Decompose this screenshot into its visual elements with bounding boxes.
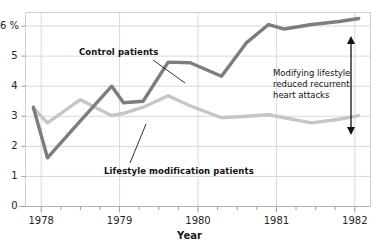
y-axis-tick-label: 4 bbox=[0, 80, 18, 91]
y-axis-tick-label: 6 % bbox=[0, 20, 18, 31]
y-axis-tick-label: 3 bbox=[0, 110, 18, 121]
y-axis-tick-label: 0 bbox=[0, 200, 18, 211]
x-axis-tick-label: 1980 bbox=[168, 215, 228, 226]
y-axis-tick-label: 1 bbox=[0, 170, 18, 181]
gap-annotation-line-1: Modifying lifestyle bbox=[273, 68, 350, 79]
x-axis-tick-label: 1978 bbox=[11, 215, 71, 226]
gap-annotation-line-2: reduced recurrent bbox=[273, 79, 350, 90]
y-axis-tick-label: 5 bbox=[0, 50, 18, 61]
y-axis-tick-label: 2 bbox=[0, 140, 18, 151]
control-patients-label: Control patients bbox=[79, 47, 158, 57]
x-axis-tick-label: 1979 bbox=[90, 215, 150, 226]
x-axis-tick-label: 1981 bbox=[246, 215, 306, 226]
x-axis-title: Year bbox=[0, 230, 379, 241]
chart-container: 0123456 % 19781979198019811982 Year Cont… bbox=[0, 0, 379, 247]
gap-annotation-text: Modifying lifestyle reduced recurrent he… bbox=[273, 68, 350, 101]
x-axis-tick-label: 1982 bbox=[325, 215, 379, 226]
chart-plot-area bbox=[0, 0, 379, 247]
gap-annotation-line-3: heart attacks bbox=[273, 90, 350, 101]
lifestyle-patients-label: Lifestyle modification patients bbox=[104, 166, 254, 176]
